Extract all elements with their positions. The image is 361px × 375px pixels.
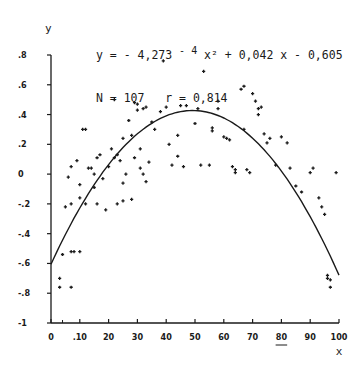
x-tick-label: 50 (189, 332, 201, 342)
data-point (288, 167, 291, 170)
data-point (286, 141, 289, 144)
data-point (280, 135, 283, 138)
data-point (185, 104, 188, 107)
x-tick-label: 40 (161, 332, 173, 342)
data-point (67, 175, 70, 178)
y-tick-label: -.4 (18, 229, 30, 239)
data-point (170, 164, 173, 167)
x-tick-label: 80 (276, 332, 288, 342)
data-point (142, 107, 145, 110)
data-point (211, 126, 214, 129)
y-tick-label: .6 (18, 80, 27, 90)
data-point (176, 155, 179, 158)
data-point (239, 88, 242, 91)
data-point (58, 286, 61, 289)
data-point (323, 213, 326, 216)
data-point (75, 159, 78, 162)
data-point (228, 138, 231, 141)
data-point (84, 128, 87, 131)
data-point (242, 85, 245, 88)
data-point (121, 181, 124, 184)
data-point (93, 173, 96, 176)
data-point (311, 167, 314, 170)
data-point (130, 134, 133, 137)
data-point (159, 110, 162, 113)
data-point (245, 168, 248, 171)
data-point (70, 250, 73, 253)
data-point (231, 165, 234, 168)
data-point (193, 122, 196, 125)
data-point (104, 208, 107, 211)
data-point (300, 190, 303, 193)
data-point (199, 164, 202, 167)
data-point (95, 156, 98, 159)
data-point (95, 202, 98, 205)
data-point (119, 159, 122, 162)
data-point (248, 171, 251, 174)
data-point (142, 173, 145, 176)
data-point (101, 177, 104, 180)
data-point (110, 147, 113, 150)
x-tick-label: 90 (305, 332, 317, 342)
data-point (121, 199, 124, 202)
data-point (202, 70, 205, 73)
data-point (78, 196, 81, 199)
data-point (329, 278, 332, 281)
data-point (165, 106, 168, 109)
data-point (136, 103, 139, 106)
data-point (260, 106, 263, 109)
x-tick-label: 30 (132, 332, 144, 342)
data-point (263, 132, 266, 135)
scatter-plot: .8.6.4.20-.2-.4-.6-.8-10.102030405060708… (0, 0, 361, 375)
data-point (144, 180, 147, 183)
data-point (216, 100, 219, 103)
data-point (265, 141, 268, 144)
data-point (254, 100, 257, 103)
data-point (78, 183, 81, 186)
x-tick-label: .10 (73, 332, 88, 342)
data-point (139, 167, 142, 170)
y-tick-label: .8 (18, 50, 27, 60)
data-point (113, 98, 116, 101)
data-point (81, 128, 84, 131)
x-tick-label: 70 (247, 332, 259, 342)
x-axis-label: x (336, 345, 343, 358)
data-point (317, 196, 320, 199)
data-point (326, 277, 329, 280)
data-point (222, 135, 225, 138)
regression-curve (51, 111, 339, 276)
x-tick-label: 0 (48, 332, 54, 342)
y-tick-label: 0 (18, 169, 24, 179)
data-point (133, 101, 136, 104)
y-tick-label: .4 (18, 110, 27, 120)
data-point (176, 134, 179, 137)
data-point (116, 202, 119, 205)
data-point (257, 113, 260, 116)
data-point (147, 161, 150, 164)
data-point (294, 184, 297, 187)
data-point (335, 171, 338, 174)
y-tick-label: -.6 (18, 258, 30, 268)
data-point (153, 128, 156, 131)
data-point (70, 202, 73, 205)
data-point (70, 286, 73, 289)
data-point (225, 137, 228, 140)
y-tick-label: -1 (18, 318, 27, 328)
data-point (196, 107, 199, 110)
data-point (320, 205, 323, 208)
data-point (309, 171, 312, 174)
data-point (78, 250, 81, 253)
data-point (133, 156, 136, 159)
data-point (130, 198, 133, 201)
data-point (87, 167, 90, 170)
data-point (84, 202, 87, 205)
data-point (72, 250, 75, 253)
data-point (216, 107, 219, 110)
x-tick-label: 20 (103, 332, 115, 342)
y-tick-label: .2 (18, 139, 27, 149)
data-point (179, 104, 182, 107)
data-point (167, 143, 170, 146)
data-point (182, 165, 185, 168)
data-point (139, 147, 142, 150)
data-point (268, 137, 271, 140)
